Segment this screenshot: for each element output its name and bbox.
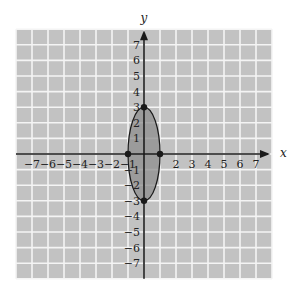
y-tick-label: 4 [133,86,140,99]
y-tick-label: 5 [133,70,140,83]
x-tick-label: 2 [173,158,180,171]
y-tick-label: 2 [133,117,140,130]
y-tick-label: −3 [124,195,140,208]
x-tick-label: 7 [253,158,260,171]
y-axis-label: y [140,11,148,25]
y-tick-label: −5 [124,226,140,239]
x-tick-label: 4 [205,158,212,171]
x-tick-label: 6 [237,158,244,171]
x-tick-label: −6 [40,158,56,171]
y-tick-label: −2 [124,179,140,192]
vertex-point [125,151,131,157]
ellipse-graph: −7−6−5−4−3−2−12345677654321−1−2−3−4−5−6−… [0,0,296,290]
x-axis-label: x [280,146,287,160]
x-tick-label: −2 [104,158,120,171]
y-tick-label: 3 [133,101,140,114]
x-tick-label: 3 [189,158,196,171]
y-tick-label: 6 [133,54,140,67]
y-tick-label: −1 [124,164,140,177]
y-tick-label: 1 [133,132,140,145]
vertex-point [141,104,147,110]
x-tick-label: −4 [72,158,88,171]
y-tick-label: −6 [124,242,140,255]
y-tick-label: −4 [124,210,140,223]
vertex-point [157,151,163,157]
x-tick-label: 5 [221,158,228,171]
vertex-point [141,198,147,204]
y-tick-label: −7 [124,257,140,270]
x-tick-label: −3 [88,158,104,171]
y-tick-label: 7 [133,39,140,52]
x-tick-label: −5 [56,158,72,171]
x-tick-label: −7 [24,158,40,171]
